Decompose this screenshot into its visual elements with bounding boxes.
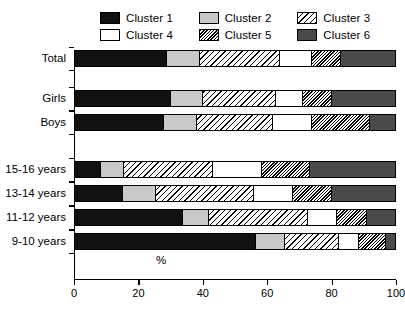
bar-segment-c2 (163, 115, 196, 130)
bar-segment-c1 (75, 91, 170, 106)
legend-item-c1: Cluster 1 (100, 9, 199, 26)
legend-label: Cluster 4 (126, 29, 173, 41)
bar-9-10-years (74, 233, 396, 250)
bar-segment-c3 (208, 210, 307, 225)
bar-segment-c6 (385, 234, 395, 249)
legend-swatch-c6-icon (297, 29, 317, 41)
bar-segment-c1 (75, 210, 182, 225)
legend-swatch-c5-icon (199, 29, 219, 41)
bar-segment-c6 (331, 91, 395, 106)
bar-segment-c4 (212, 162, 260, 177)
x-tick-label: 40 (197, 287, 209, 299)
legend-item-c5: Cluster 5 (199, 26, 298, 43)
bar-segment-c6 (309, 162, 395, 177)
bar-segment-c4 (279, 51, 312, 66)
y-tick (69, 206, 74, 207)
bar-segment-c3 (284, 234, 339, 249)
legend-label: Cluster 2 (225, 12, 272, 24)
bar-boys (74, 114, 396, 131)
x-tick (267, 280, 268, 285)
bar-segment-c2 (170, 91, 203, 106)
y-tick (69, 230, 74, 231)
bar-segment-c3 (199, 51, 279, 66)
x-tick (332, 280, 333, 285)
bar-15-16-years (74, 161, 396, 178)
bar-segment-c3 (202, 91, 275, 106)
y-axis-label-9-10-years: 9-10 years (12, 235, 66, 247)
bar-segment-c5 (358, 234, 384, 249)
legend-swatch-c3-icon (297, 12, 317, 24)
x-axis-line (74, 279, 396, 280)
bar-segment-c2 (166, 51, 199, 66)
x-tick-label: 80 (325, 287, 337, 299)
x-tick (138, 280, 139, 285)
bar-segment-c6 (366, 210, 395, 225)
bar-segment-c3 (196, 115, 273, 130)
y-tick (69, 70, 74, 71)
legend-item-c2: Cluster 2 (199, 9, 298, 26)
y-tick (69, 87, 74, 88)
x-axis-title: % (156, 254, 166, 266)
bar-segment-c4 (275, 91, 301, 106)
bar-segment-c4 (307, 210, 336, 225)
bar-segment-c5 (261, 162, 309, 177)
bar-segment-c4 (338, 234, 358, 249)
bar-segment-c1 (75, 51, 166, 66)
legend-item-c6: Cluster 6 (297, 26, 396, 43)
bar-segment-c3 (123, 162, 212, 177)
legend-swatch-c4-icon (100, 29, 120, 41)
y-axis-labels: TotalGirlsBoys15-16 years13-14 years11-1… (0, 50, 70, 280)
plot-area: 020406080100 (74, 50, 396, 280)
x-tick-label: 100 (387, 287, 405, 299)
bar-segment-c5 (311, 51, 340, 66)
x-tick (396, 280, 397, 285)
legend-label: Cluster 1 (126, 12, 173, 24)
bar-segment-c3 (155, 186, 254, 201)
legend-swatch-c2-icon (199, 12, 219, 24)
bar-segment-c1 (75, 162, 100, 177)
bar-girls (74, 90, 396, 107)
bar-segment-c2 (255, 234, 284, 249)
y-tick (69, 158, 74, 159)
y-tick (69, 253, 74, 254)
bar-segment-c1 (75, 186, 122, 201)
y-tick (69, 182, 74, 183)
y-tick (69, 134, 74, 135)
bar-segment-c2 (182, 210, 208, 225)
chart-legend: Cluster 1Cluster 2Cluster 3Cluster 4Clus… (100, 9, 396, 43)
bar-segment-c5 (336, 210, 365, 225)
bar-11-12-years (74, 209, 396, 226)
y-axis-label-boys: Boys (40, 116, 66, 128)
bar-segment-c5 (302, 91, 331, 106)
y-axis-label-15-16-years: 15-16 years (5, 163, 66, 175)
bar-segment-c1 (75, 234, 255, 249)
y-axis-label-11-12-years: 11-12 years (6, 211, 66, 223)
bar-segment-c4 (272, 115, 311, 130)
bar-segment-c2 (122, 186, 155, 201)
bar-segment-c6 (340, 51, 395, 66)
bar-segment-c6 (331, 186, 395, 201)
legend-label: Cluster 5 (225, 29, 272, 41)
y-tick (69, 47, 74, 48)
bar-segment-c5 (311, 115, 369, 130)
x-tick (203, 280, 204, 285)
bar-segment-c5 (292, 186, 331, 201)
y-axis-label-13-14-years: 13-14 years (5, 187, 66, 199)
bar-total (74, 50, 396, 67)
bar-segment-c1 (75, 115, 163, 130)
bar-segment-c2 (100, 162, 123, 177)
bar-segment-c6 (369, 115, 395, 130)
x-tick-label: 60 (261, 287, 273, 299)
bar-segment-c4 (253, 186, 292, 201)
x-tick (74, 280, 75, 285)
bar-13-14-years (74, 185, 396, 202)
legend-label: Cluster 3 (323, 12, 370, 24)
legend-item-c3: Cluster 3 (297, 9, 396, 26)
y-axis-label-girls: Girls (42, 92, 66, 104)
y-axis-label-total: Total (42, 52, 66, 64)
legend-item-c4: Cluster 4 (100, 26, 199, 43)
x-tick-label: 20 (132, 287, 144, 299)
legend-label: Cluster 6 (323, 29, 370, 41)
x-tick-label: 0 (71, 287, 77, 299)
legend-swatch-c1-icon (100, 12, 120, 24)
